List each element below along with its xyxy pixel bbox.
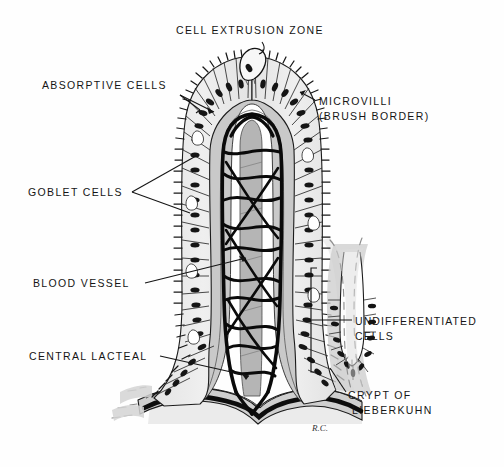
label-microvilli-line1: MICROVILLI (319, 95, 392, 107)
label-central-lacteal: CENTRAL LACTEAL (29, 350, 147, 362)
label-cell-extrusion-zone: CELL EXTRUSION ZONE (176, 24, 324, 36)
villus-figure: CELL EXTRUSION ZONE ABSORPTIVE CELLS MIC… (0, 0, 504, 467)
label-crypt-of-lieberkuhn-line1: CRYPT OF (348, 389, 412, 401)
label-blood-vessel: BLOOD VESSEL (33, 277, 130, 289)
label-crypt-of-lieberkuhn-line2: LIEBERKUHN (352, 404, 433, 416)
label-goblet-cells: GOBLET CELLS (28, 186, 123, 198)
artist-signature: R.C. (311, 423, 328, 433)
label-undifferentiated-cells-line2: CELLS (355, 330, 394, 342)
label-microvilli-line2: (BRUSH BORDER) (319, 110, 430, 122)
label-absorptive-cells: ABSORPTIVE CELLS (42, 79, 167, 91)
diagram-canvas: CELL EXTRUSION ZONE ABSORPTIVE CELLS MIC… (0, 0, 504, 467)
label-undifferentiated-cells-line1: UNDIFFERENTIATED (355, 315, 477, 327)
